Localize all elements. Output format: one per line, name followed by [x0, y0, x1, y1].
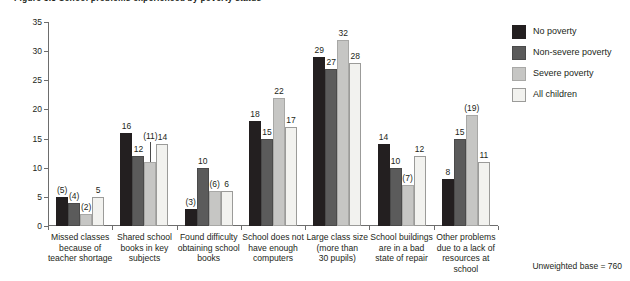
figure-container: Figure 5.8 School problems experienced b…: [0, 0, 630, 281]
y-tick-mark: [44, 109, 48, 110]
y-tick-label: 15: [33, 134, 42, 143]
bar-5-no-poverty: [313, 57, 325, 226]
bar-value-label: 6: [214, 180, 240, 189]
legend-swatch: [512, 25, 526, 39]
bar-value-label: 5: [85, 186, 111, 195]
bar-value-label: (19): [459, 104, 485, 113]
y-tick-mark: [44, 139, 48, 140]
y-tick-label: 30: [33, 47, 42, 56]
bar-7-severe-poverty: [466, 115, 478, 226]
x-tick-mark: [305, 226, 306, 230]
bar-value-label: 12: [125, 145, 151, 154]
bar-2-all-children: [156, 144, 168, 226]
x-tick-mark: [241, 226, 242, 230]
bar-3-severe-poverty: [209, 191, 221, 226]
y-tick-mark: [44, 168, 48, 169]
y-tick-label: 35: [33, 18, 42, 27]
legend-label: Severe poverty: [533, 68, 594, 79]
y-tick-label: 25: [33, 76, 42, 85]
bar-2-severe-poverty: [144, 162, 156, 226]
bar-3-no-poverty: [185, 209, 197, 226]
plot-area: (5)(4)(2)51612(11)14(3)10(6)618152217292…: [48, 22, 498, 226]
x-tick-mark: [498, 226, 499, 230]
bar-value-label: 10: [190, 157, 216, 166]
y-tick-label: 10: [33, 163, 42, 172]
y-tick-label: 0: [37, 222, 42, 231]
figure-title: Figure 5.8 School problems experienced b…: [14, 0, 261, 3]
x-category-label-line: school: [428, 264, 504, 275]
bar-value-label: 32: [330, 29, 356, 38]
bar-value-label: 12: [407, 145, 433, 154]
x-tick-mark: [177, 226, 178, 230]
bar-4-non-severe-poverty: [261, 139, 273, 226]
bar-value-label: 14: [149, 133, 175, 142]
x-tick-mark: [48, 226, 49, 230]
bar-5-severe-poverty: [337, 40, 349, 227]
bar-7-no-poverty: [442, 179, 454, 226]
x-category-label-line: resources at: [428, 253, 504, 264]
bar-value-label: 11: [471, 151, 497, 160]
y-axis-line: [48, 22, 49, 226]
bar-5-all-children: [349, 63, 361, 226]
y-tick-mark: [44, 197, 48, 198]
bar-1-severe-poverty: [80, 214, 92, 226]
y-tick-label: 20: [33, 105, 42, 114]
bar-value-label: 14: [371, 133, 397, 142]
bar-5-non-severe-poverty: [325, 69, 337, 226]
x-tick-mark: [369, 226, 370, 230]
x-tick-mark: [434, 226, 435, 230]
bar-3-non-severe-poverty: [197, 168, 209, 226]
bar-6-severe-poverty: [402, 185, 414, 226]
bar-4-no-poverty: [249, 121, 261, 226]
bar-7-all-children: [478, 162, 490, 226]
figure-footnote: Unweighted base = 760: [532, 261, 622, 271]
x-category-label-7: Other problemsdue to a lack ofresources …: [428, 232, 504, 274]
y-tick-mark: [44, 22, 48, 23]
legend-swatch: [512, 67, 526, 81]
bar-2-non-severe-poverty: [132, 156, 144, 226]
legend-label: All children: [533, 89, 577, 100]
y-tick-mark: [44, 80, 48, 81]
legend-label: No poverty: [533, 26, 577, 37]
bar-4-all-children: [285, 127, 297, 226]
bar-value-label: 16: [113, 122, 139, 131]
bar-1-all-children: [92, 197, 104, 226]
y-tick-label: 5: [37, 193, 42, 202]
bar-value-label: 28: [342, 52, 368, 61]
x-category-label-line: Other problems: [428, 232, 504, 243]
x-tick-mark: [112, 226, 113, 230]
bar-value-label: 10: [383, 157, 409, 166]
y-axis-tick-labels: 05101520253035: [22, 22, 44, 226]
y-tick-mark: [44, 51, 48, 52]
value-label-leader-line: [150, 142, 151, 162]
bar-value-label: 29: [306, 46, 332, 55]
bar-3-all-children: [221, 191, 233, 226]
bar-7-non-severe-poverty: [454, 139, 466, 226]
legend-label: Non-severe poverty: [533, 47, 612, 58]
bar-value-label: 22: [266, 87, 292, 96]
bar-value-label: (4): [61, 192, 87, 201]
legend-swatch: [512, 46, 526, 60]
bar-6-all-children: [414, 156, 426, 226]
legend-swatch: [512, 88, 526, 102]
bar-1-no-poverty: [56, 197, 68, 226]
bar-value-label: 18: [242, 110, 268, 119]
bar-value-label: 17: [278, 116, 304, 125]
x-category-label-line: due to a lack of: [428, 243, 504, 254]
